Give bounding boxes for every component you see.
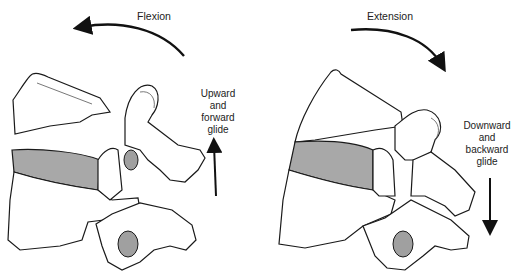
- upward-glide-arrow-icon: [214, 145, 216, 196]
- extension-curved-arrow-icon: [351, 29, 441, 64]
- flexion-glide-label: Upward and forward glide: [190, 88, 246, 136]
- facet-joint: [124, 150, 138, 170]
- lower-facet: [393, 231, 413, 257]
- flexion-curved-arrow-icon: [82, 25, 184, 56]
- flexion-vertebrae-illustration: [0, 0, 256, 276]
- flexion-title: Flexion: [124, 10, 184, 22]
- lower-facet: [118, 231, 138, 257]
- extension-panel: Extension Downward and backward glide: [255, 0, 511, 276]
- extension-title: Extension: [355, 10, 425, 22]
- flexion-panel: Flexion Upward and forward glide: [0, 0, 256, 276]
- extension-glide-label: Downward and backward glide: [459, 120, 511, 168]
